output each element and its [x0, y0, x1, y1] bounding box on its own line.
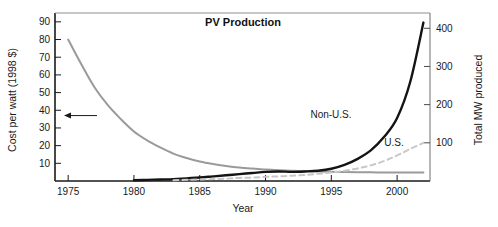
- pv-production-chart: 197519801985199019952000 102030405060708…: [0, 0, 498, 227]
- left-tick-label: 70: [39, 52, 51, 63]
- x-tick-label: 1980: [123, 186, 146, 197]
- left-tick-label: 20: [39, 140, 51, 151]
- left-tick-label: 80: [39, 34, 51, 45]
- left-tick-label: 60: [39, 69, 51, 80]
- right-tick-label: 300: [436, 61, 453, 72]
- x-tick-label: 1990: [254, 186, 277, 197]
- left-axis-title: Cost per watt (1998 $): [6, 48, 18, 152]
- chart-title: PV Production: [205, 16, 281, 28]
- right-axis-title: Total MW produced: [472, 55, 484, 146]
- x-tick-label: 1975: [57, 186, 80, 197]
- right-tick-label: 100: [436, 137, 453, 148]
- right-tick-label: 200: [436, 99, 453, 110]
- left-tick-label: 40: [39, 105, 51, 116]
- chart-figure: 197519801985199019952000 102030405060708…: [0, 0, 498, 227]
- left-tick-label: 50: [39, 87, 51, 98]
- left-axis-ticks: 102030405060708090: [39, 16, 61, 168]
- left-tick-label: 30: [39, 122, 51, 133]
- right-tick-label: 400: [436, 23, 453, 34]
- series-label-non-us: Non-U.S.: [310, 109, 351, 120]
- x-tick-label: 2000: [386, 186, 409, 197]
- x-axis-title: Year: [232, 202, 254, 214]
- x-tick-label: 1985: [189, 186, 212, 197]
- left-tick-label: 10: [39, 158, 51, 169]
- series-label-us: U.S.: [384, 137, 403, 148]
- left-tick-label: 90: [39, 16, 51, 27]
- x-tick-label: 1995: [320, 186, 343, 197]
